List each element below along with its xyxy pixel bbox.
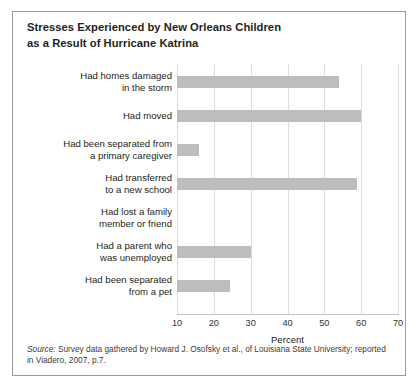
source-text: Survey data gathered by Howard J. Osofsk…	[27, 344, 386, 365]
x-tick-label-50: 50	[319, 318, 329, 328]
bar	[177, 76, 339, 88]
gridline-70	[398, 64, 399, 314]
x-tick-label-20: 20	[209, 318, 219, 328]
bar	[177, 110, 361, 122]
bar	[177, 280, 230, 292]
x-tick-label-60: 60	[356, 318, 366, 328]
y-axis-category-labels: Had homes damagedin the stormHad movedHa…	[0, 64, 172, 314]
category-label: Had been separatedfrom a pet	[0, 274, 172, 297]
category-label: Had been separated froma primary caregiv…	[0, 138, 172, 161]
bar	[177, 246, 251, 258]
x-axis-line	[177, 314, 399, 315]
category-label: Had homes damagedin the storm	[0, 70, 172, 93]
category-label-line: Had lost a family	[0, 206, 172, 218]
x-tick-label-40: 40	[282, 318, 292, 328]
bar	[177, 144, 199, 156]
category-label-line: a primary caregiver	[0, 150, 172, 162]
x-tick-label-70: 70	[393, 318, 403, 328]
category-label-line: from a pet	[0, 286, 172, 298]
page-title: Stresses Experienced by New Orleans Chil…	[27, 20, 357, 51]
category-label: Had transferredto a new school	[0, 172, 172, 195]
category-label-line: Had moved	[0, 110, 172, 122]
source-divider	[26, 336, 394, 337]
category-label: Had moved	[0, 110, 172, 122]
title-line-2: as a Result of Hurricane Katrina	[27, 36, 357, 52]
gridline-60	[361, 64, 362, 314]
title-line-1: Stresses Experienced by New Orleans Chil…	[27, 20, 357, 36]
category-label-line: Had been separated from	[0, 138, 172, 150]
category-label-line: in the storm	[0, 82, 172, 94]
x-tick-label-30: 30	[246, 318, 256, 328]
category-label-line: was unemployed	[0, 252, 172, 264]
category-label-line: Had been separated	[0, 274, 172, 286]
source-note: Source: Survey data gathered by Howard J…	[27, 344, 391, 367]
chart-plot-area: Had homes damagedin the stormHad movedHa…	[177, 64, 398, 314]
category-label-line: Had a parent who	[0, 240, 172, 252]
figure-frame: Stresses Experienced by New Orleans Chil…	[12, 11, 406, 376]
category-label-line: member or friend	[0, 218, 172, 230]
category-label: Had lost a familymember or friend	[0, 206, 172, 229]
page-bleed-text	[0, 0, 419, 10]
category-label-line: to a new school	[0, 184, 172, 196]
category-label-line: Had homes damaged	[0, 70, 172, 82]
bar	[177, 178, 357, 190]
source-label: Source:	[27, 344, 56, 354]
category-label-line: Had transferred	[0, 172, 172, 184]
x-tick-label-10: 10	[172, 318, 182, 328]
category-label: Had a parent whowas unemployed	[0, 240, 172, 263]
